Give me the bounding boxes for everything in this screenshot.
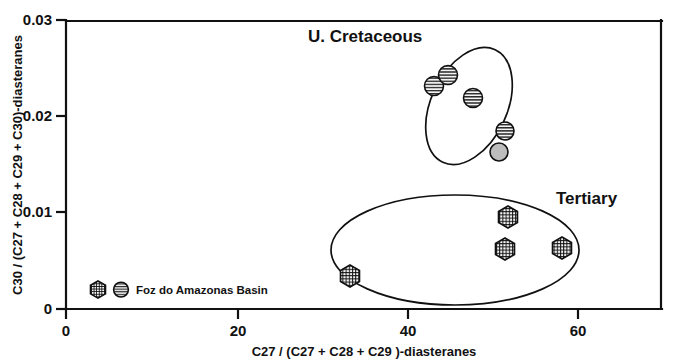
y-tick-label-1: 0.01 <box>23 203 52 220</box>
scatter-plot-figure: 0.03 0.02 0.01 0 0 20 40 60 C27 / (C27 +… <box>0 0 674 362</box>
data-point-tertiary-3 <box>496 238 515 260</box>
group-outline-tertiary <box>331 195 579 305</box>
x-tick-label-3: 60 <box>570 322 587 339</box>
data-point-cretaceous-3 <box>464 89 483 108</box>
y-tick-label-0: 0 <box>44 300 52 317</box>
data-point-cretaceous-4 <box>496 122 514 140</box>
y-axis-title: C30 / (C27 + C28 + C29 + C30)-diasterane… <box>10 35 25 295</box>
data-point-tertiary-1 <box>341 265 360 287</box>
legend-marker-hexagon-grid-hatch-icon <box>91 281 106 298</box>
x-axis-title: C27 / (C27 + C28 + C29 )-diasteranes <box>252 344 477 359</box>
x-tick-label-1: 20 <box>230 322 247 339</box>
plot-canvas: 0.03 0.02 0.01 0 0 20 40 60 C27 / (C27 +… <box>0 0 674 362</box>
legend-label: Foz do Amazonas Basin <box>136 284 268 296</box>
group-label-u-cretaceous: U. Cretaceous <box>308 27 422 46</box>
y-tick-label-3: 0.03 <box>23 11 52 28</box>
y-tick-label-2: 0.02 <box>23 107 52 124</box>
data-point-cretaceous-2 <box>439 66 458 85</box>
y-axis-ticks: 0.03 0.02 0.01 0 <box>23 11 66 317</box>
series-u-cretaceous-points <box>425 66 515 162</box>
data-point-tertiary-4 <box>553 237 572 259</box>
x-tick-label-2: 40 <box>400 322 417 339</box>
axis-lines <box>66 20 662 309</box>
group-label-tertiary: Tertiary <box>556 189 618 208</box>
legend-marker-circle-horizontal-hatch-icon <box>114 282 129 297</box>
x-tick-label-0: 0 <box>62 322 70 339</box>
data-point-tertiary-2 <box>499 206 518 228</box>
data-point-cretaceous-5 <box>490 143 508 161</box>
legend: Foz do Amazonas Basin <box>91 281 268 298</box>
series-tertiary-points <box>341 206 572 287</box>
x-axis-ticks: 0 20 40 60 <box>62 309 587 339</box>
